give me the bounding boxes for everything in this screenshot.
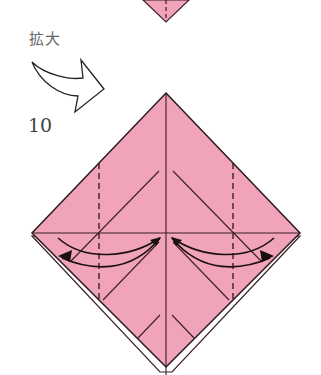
origami-diagram — [0, 0, 321, 375]
previous-step-tip — [143, 0, 189, 22]
curved-arrow-icon — [32, 60, 104, 112]
